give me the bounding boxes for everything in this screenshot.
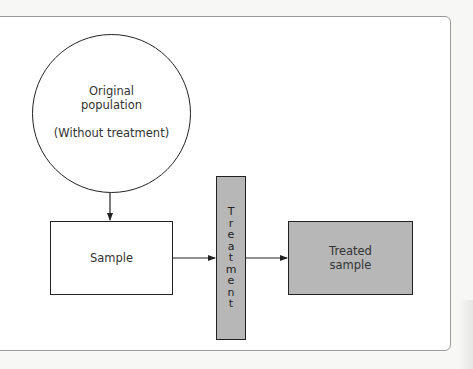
page-edge-shadow bbox=[459, 300, 473, 369]
edge-arrows bbox=[0, 0, 473, 369]
